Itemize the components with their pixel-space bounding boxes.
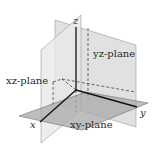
y-axis-label: y	[139, 107, 146, 118]
x-axis-label: x	[30, 119, 36, 130]
coordinate-planes-diagram: z x y yz-plane xz-plane xy-plane	[0, 0, 156, 153]
diagram-canvas: z x y yz-plane xz-plane xy-plane	[0, 0, 156, 153]
xy-plane-label: xy-plane	[70, 119, 113, 130]
z-axis-label: z	[72, 15, 79, 26]
yz-plane-label: yz-plane	[92, 48, 135, 59]
xz-plane-label: xz-plane	[6, 75, 48, 86]
